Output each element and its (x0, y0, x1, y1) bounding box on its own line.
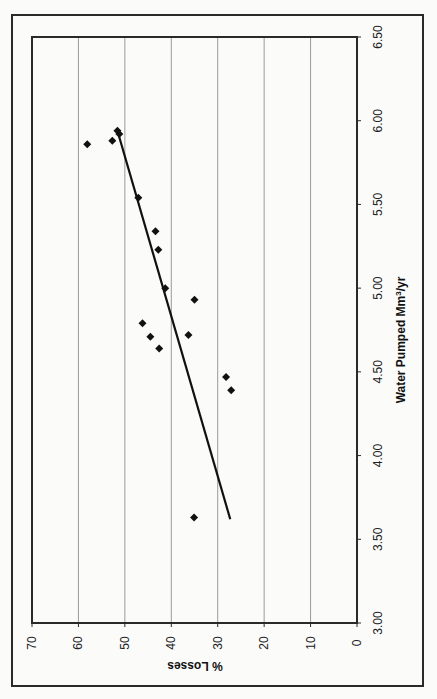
scatter-chart: 3.003.504.004.505.005.506.006.50 0102030… (0, 0, 437, 699)
trend-line (117, 131, 230, 519)
plot-area (32, 37, 357, 623)
y-tick-label: 40 (164, 636, 178, 650)
y-tick-label: 30 (211, 636, 225, 650)
data-point-diamond (152, 227, 160, 235)
x-tick-label: 4.50 (371, 360, 385, 384)
y-axis-ticks: 010203040506070 (25, 623, 364, 650)
x-axis-ticks: 3.003.504.004.505.005.506.006.50 (357, 25, 385, 635)
y-tick-label: 50 (118, 636, 132, 650)
data-point-diamond (222, 373, 230, 381)
data-point-diamond (146, 333, 154, 341)
data-point-diamond (154, 246, 162, 254)
y-tick-label: 0 (350, 639, 364, 646)
x-tick-label: 3.50 (371, 527, 385, 551)
data-point-diamond (139, 319, 147, 327)
x-tick-label: 3.00 (371, 611, 385, 635)
x-tick-label: 4.00 (371, 444, 385, 468)
y-tick-label: 60 (71, 636, 85, 650)
data-point-diamond (190, 514, 198, 522)
data-point-diamond (227, 386, 235, 394)
data-point-diamond (108, 137, 116, 145)
y-tick-label: 20 (257, 636, 271, 650)
data-point-diamond (184, 331, 192, 339)
y-axis-title: % Losses (167, 659, 223, 673)
gridlines (78, 37, 310, 623)
y-tick-label: 10 (304, 636, 318, 650)
x-tick-label: 5.50 (371, 192, 385, 216)
data-points (83, 127, 235, 522)
y-tick-label: 70 (25, 636, 39, 650)
data-point-diamond (155, 344, 163, 352)
data-point-diamond (191, 296, 199, 304)
data-point-diamond (83, 140, 91, 148)
trendline (117, 131, 230, 519)
x-tick-label: 6.50 (371, 25, 385, 49)
x-tick-label: 6.00 (371, 109, 385, 133)
x-tick-label: 5.00 (371, 276, 385, 300)
x-axis-title: Water Pumped Mm3/yr (394, 276, 409, 403)
